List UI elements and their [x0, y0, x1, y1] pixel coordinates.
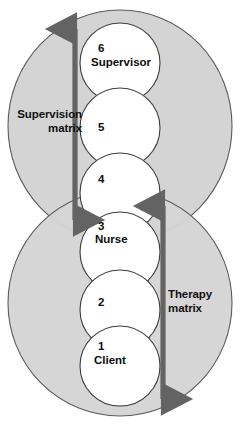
node-3-name: Nurse	[95, 233, 128, 247]
node-2-number: 2	[98, 296, 104, 309]
node-1-number: 1	[98, 340, 104, 353]
node-4-number: 4	[98, 173, 104, 186]
node-3-number: 3	[98, 220, 104, 233]
node-1-name: Client	[94, 354, 126, 368]
diagram-canvas: Supervision matrix Therapy matrix 6 Supe…	[0, 0, 243, 429]
therapy-matrix-label: Therapy matrix	[168, 288, 240, 315]
node-5-number: 5	[98, 121, 104, 134]
supervision-matrix-label: Supervision matrix	[6, 108, 82, 135]
node-6-name: Supervisor	[91, 56, 151, 70]
node-6-number: 6	[98, 42, 104, 55]
